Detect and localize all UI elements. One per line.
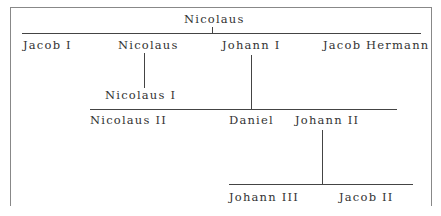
connector-johann-i <box>251 55 252 109</box>
frame-border-left <box>10 7 11 206</box>
node-johann-i: Johann I <box>222 39 280 52</box>
node-johann-iii: Johann III <box>229 191 299 204</box>
connector-johann-ii <box>322 130 323 184</box>
node-nicolaus-ii: Nicolaus II <box>90 114 167 127</box>
node-nicolaus: Nicolaus <box>118 39 179 52</box>
sibling-line-generation1 <box>22 33 421 34</box>
sibling-line-generation2 <box>90 109 397 110</box>
sibling-line-generation3 <box>229 184 413 185</box>
node-jacob-ii: Jacob II <box>339 191 394 204</box>
node-jacob-i: Jacob I <box>23 39 72 52</box>
connector-nicolaus <box>144 53 145 88</box>
frame-border-right <box>431 7 432 206</box>
node-nicolaus-root: Nicolaus <box>184 13 245 26</box>
node-jacob-hermann: Jacob Hermann <box>323 39 429 52</box>
node-johann-ii: Johann II <box>295 114 359 127</box>
frame-border-top <box>10 7 432 8</box>
node-daniel: Daniel <box>229 114 274 127</box>
node-nicolaus-i: Nicolaus I <box>105 89 176 102</box>
